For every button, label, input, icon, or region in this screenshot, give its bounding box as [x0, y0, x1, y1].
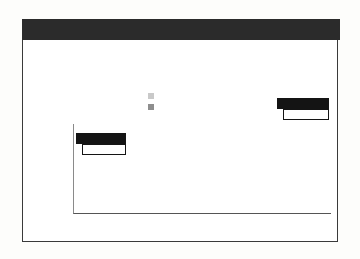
chart-legend	[148, 91, 158, 113]
callout-start-bottom-20	[82, 144, 126, 155]
chart-title-bar	[22, 19, 340, 40]
x-axis	[73, 215, 330, 227]
callout-end-top-20	[277, 98, 329, 109]
callout-start-top-20	[76, 133, 126, 144]
legend-swatch-icon	[148, 93, 154, 99]
callout-end-bottom-20	[283, 109, 329, 120]
legend-item-top-20	[148, 91, 158, 101]
chart-figure	[0, 0, 360, 259]
legend-swatch-icon	[148, 104, 154, 110]
y-axis	[27, 119, 71, 218]
legend-item-bottom-20	[148, 102, 158, 112]
